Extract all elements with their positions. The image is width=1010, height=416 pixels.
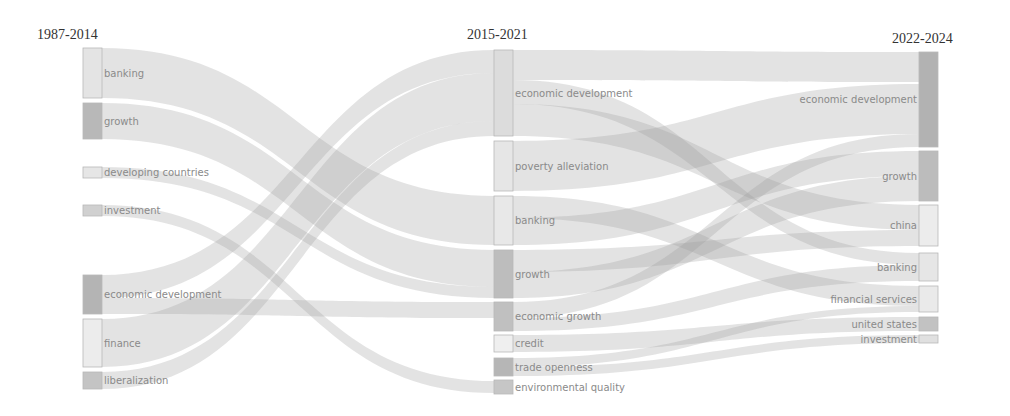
node-banking	[83, 48, 102, 98]
node-growth	[83, 103, 102, 139]
node-label-growth: growth	[515, 269, 550, 280]
node-environmental-quality	[494, 380, 513, 394]
node-label-banking: banking	[877, 262, 917, 273]
node-label-investment: investment	[104, 205, 161, 216]
node-label-credit: credit	[515, 338, 544, 349]
link-economic-development-to-economic-development	[513, 50, 919, 82]
node-banking	[494, 196, 513, 245]
node-label-economic-development: economic development	[515, 88, 632, 99]
node-label-banking: banking	[515, 215, 555, 226]
node-finance	[83, 319, 102, 367]
node-label-banking: banking	[104, 68, 144, 79]
node-united-states	[919, 317, 938, 331]
node-label-growth: growth	[882, 171, 917, 182]
node-label-liberalization: liberalization	[104, 375, 168, 386]
node-label-china: china	[890, 220, 917, 231]
node-growth	[494, 250, 513, 298]
node-label-environmental-quality: environmental quality	[515, 382, 625, 393]
node-developing-countries	[83, 167, 102, 178]
node-investment	[919, 335, 938, 343]
node-label-financial-services: financial services	[831, 294, 918, 305]
node-label-investment: investment	[861, 334, 918, 345]
node-financial-services	[919, 286, 938, 312]
node-label-poverty-alleviation: poverty alleviation	[515, 161, 608, 172]
node-trade-openness	[494, 358, 513, 376]
node-poverty-alleviation	[494, 141, 513, 191]
node-investment	[83, 205, 102, 216]
node-credit	[494, 335, 513, 352]
node-economic-development	[83, 275, 102, 314]
sankey-diagram: 1987-2014 2015-2021 2022-2024 bankinggro…	[0, 0, 1010, 416]
node-label-growth: growth	[104, 116, 139, 127]
node-label-economic-development: economic development	[800, 94, 917, 105]
node-label-developing-countries: developing countries	[104, 167, 209, 178]
node-banking	[919, 253, 938, 281]
node-label-trade-openness: trade openness	[515, 362, 593, 373]
node-liberalization	[83, 372, 102, 389]
node-label-economic-development: economic development	[104, 289, 221, 300]
node-china	[919, 205, 938, 246]
node-label-united-states: united states	[851, 319, 917, 330]
node-label-economic-growth: economic growth	[515, 311, 601, 322]
sankey-canvas: bankinggrowthdeveloping countriesinvestm…	[0, 0, 1010, 416]
node-economic-development	[494, 50, 513, 136]
node-growth	[919, 151, 938, 201]
node-label-finance: finance	[104, 338, 141, 349]
node-economic-growth	[494, 302, 513, 331]
node-economic-development	[919, 52, 938, 147]
